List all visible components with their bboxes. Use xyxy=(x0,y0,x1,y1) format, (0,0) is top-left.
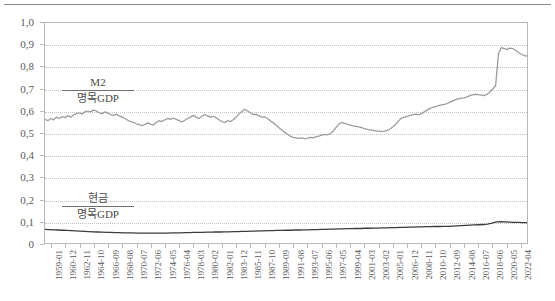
x-tick-mark xyxy=(236,244,237,248)
x-tick-label: 1972-06 xyxy=(154,250,163,280)
x-tick-mark xyxy=(151,244,152,248)
x-tick-label: 1999-04 xyxy=(354,250,363,280)
x-tick-label: 2022-04 xyxy=(524,250,533,280)
x-tick-mark xyxy=(450,244,451,248)
annotation-cash-denominator: 명목GDP xyxy=(62,208,134,221)
y-tick-label: 0 xyxy=(29,239,35,250)
x-tick-label: 2018-06 xyxy=(496,250,505,280)
annotation-cash-fraction-bar xyxy=(62,206,134,207)
x-tick-mark xyxy=(193,244,194,248)
y-tick-label: 0,4 xyxy=(20,150,34,161)
x-tick-label: 1983-12 xyxy=(240,250,249,280)
annotation-m2-numerator: M2 xyxy=(62,76,134,89)
x-tick-mark xyxy=(364,244,365,248)
annotation-m2-ratio: M2 명목GDP xyxy=(62,76,134,105)
annotation-cash-numerator: 현금 xyxy=(62,192,134,205)
y-tick-label: 0,1 xyxy=(20,216,34,227)
x-tick-label: 1989-09 xyxy=(282,250,291,280)
x-tick-label: 1978-03 xyxy=(197,250,206,280)
annotation-cash-ratio: 현금 명목GDP xyxy=(62,192,134,221)
x-tick-label: 2010-10 xyxy=(439,250,448,280)
x-tick-label: 1976-04 xyxy=(183,250,192,280)
y-tick-label: 0,5 xyxy=(20,128,34,139)
x-tick-mark xyxy=(407,244,408,248)
y-tick-label: 0,3 xyxy=(20,172,34,183)
x-tick-label: 1960-12 xyxy=(69,250,78,280)
x-tick-mark xyxy=(379,244,380,248)
top-divider xyxy=(4,4,551,5)
x-tick-mark xyxy=(65,244,66,248)
x-tick-mark xyxy=(80,244,81,248)
x-tick-label: 1982-01 xyxy=(226,250,235,280)
x-tick-label: 1980-02 xyxy=(211,250,220,280)
x-tick-label: 1966-09 xyxy=(112,250,121,280)
x-tick-label: 2014-08 xyxy=(468,250,477,280)
y-tick-label: 0,8 xyxy=(20,61,34,72)
x-tick-mark xyxy=(464,244,465,248)
x-tick-mark xyxy=(350,244,351,248)
x-tick-mark xyxy=(179,244,180,248)
x-tick-mark xyxy=(322,244,323,248)
x-tick-mark xyxy=(122,244,123,248)
x-tick-mark xyxy=(435,244,436,248)
y-tick-label: 0,6 xyxy=(20,105,34,116)
x-tick-label: 1991-08 xyxy=(297,250,306,280)
x-tick-label: 2012-09 xyxy=(453,250,462,280)
x-tick-mark xyxy=(165,244,166,248)
annotation-m2-denominator: 명목GDP xyxy=(62,92,134,105)
x-axis: 1959-011960-121962-111964-101966-091968-… xyxy=(44,244,528,301)
x-tick-label: 2020-05 xyxy=(510,250,519,280)
x-tick-label: 2003-02 xyxy=(382,250,391,280)
x-tick-label: 1995-06 xyxy=(325,250,334,280)
y-tick-label: 0,2 xyxy=(20,194,34,205)
chart-figure: 1,00,90,80,70,60,50,40,30,20,10 M2 명목GDP… xyxy=(0,0,555,301)
x-tick-label: 2008-11 xyxy=(425,250,434,280)
x-tick-mark xyxy=(393,244,394,248)
x-tick-mark xyxy=(250,244,251,248)
x-tick-mark xyxy=(336,244,337,248)
x-tick-label: 1974-05 xyxy=(169,250,178,280)
x-tick-label: 1993-07 xyxy=(311,250,320,280)
x-tick-label: 1959-01 xyxy=(55,250,64,280)
y-tick-label: 0,9 xyxy=(20,39,34,50)
x-tick-label: 2001-03 xyxy=(368,250,377,280)
x-tick-mark xyxy=(492,244,493,248)
x-tick-mark xyxy=(421,244,422,248)
x-tick-mark xyxy=(208,244,209,248)
x-tick-label: 1985-11 xyxy=(254,250,263,280)
x-tick-mark xyxy=(222,244,223,248)
x-tick-mark xyxy=(51,244,52,248)
x-tick-mark xyxy=(507,244,508,248)
y-tick-label: 0,7 xyxy=(20,83,34,94)
x-tick-mark xyxy=(137,244,138,248)
x-tick-mark xyxy=(521,244,522,248)
x-tick-mark xyxy=(265,244,266,248)
x-tick-label: 1970-07 xyxy=(140,250,149,280)
y-axis: 1,00,90,80,70,60,50,40,30,20,10 xyxy=(0,22,40,244)
y-tick-label: 1,0 xyxy=(20,17,34,28)
x-tick-mark xyxy=(293,244,294,248)
x-tick-mark xyxy=(279,244,280,248)
x-tick-label: 1987-10 xyxy=(268,250,277,280)
x-tick-mark xyxy=(307,244,308,248)
x-tick-mark xyxy=(108,244,109,248)
series-line-cash xyxy=(45,222,527,233)
x-tick-mark xyxy=(478,244,479,248)
x-tick-mark xyxy=(94,244,95,248)
x-tick-label: 2016-07 xyxy=(482,250,491,280)
x-tick-label: 2006-12 xyxy=(411,250,420,280)
x-tick-label: 2005-01 xyxy=(396,250,405,280)
x-tick-label: 1964-10 xyxy=(97,250,106,280)
x-tick-label: 1997-05 xyxy=(339,250,348,280)
x-tick-label: 1962-11 xyxy=(83,250,92,280)
annotation-m2-fraction-bar xyxy=(62,90,134,91)
x-tick-label: 1968-08 xyxy=(126,250,135,280)
